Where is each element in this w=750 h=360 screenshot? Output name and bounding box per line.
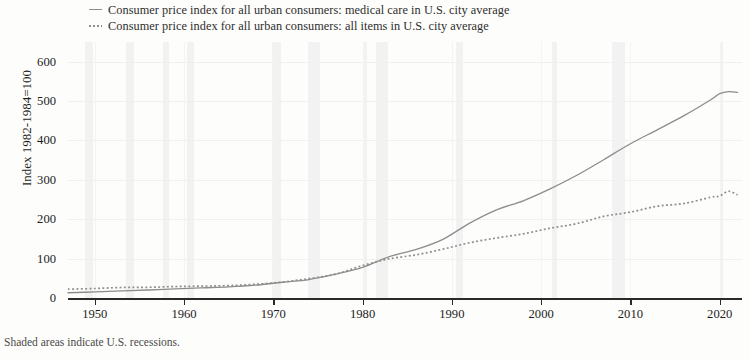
- x-tick-label: 1970: [261, 307, 286, 322]
- legend-item-all-items: Consumer price index for all urban consu…: [88, 18, 688, 34]
- y-tick-label: 500: [0, 94, 56, 109]
- x-tick-mark: [184, 298, 185, 305]
- y-tick-label: 100: [0, 251, 56, 266]
- y-tick-label: 0: [0, 291, 56, 306]
- cpi-chart-figure: Consumer price index for all urban consu…: [0, 0, 750, 360]
- y-tick-label: 400: [0, 133, 56, 148]
- x-tick-mark: [630, 298, 631, 305]
- y-axis-tick-labels: 0100200300400500600: [0, 42, 60, 298]
- recession-footnote: Shaded areas indicate U.S. recessions.: [4, 336, 180, 348]
- x-tick-mark: [363, 298, 364, 305]
- series-line-all-items: [68, 191, 738, 289]
- x-tick-label: 1960: [171, 307, 196, 322]
- x-tick-label: 2010: [618, 307, 643, 322]
- y-tick-label: 200: [0, 212, 56, 227]
- x-tick-label: 2020: [707, 307, 732, 322]
- dotted-line-marker-icon: [88, 19, 104, 33]
- y-tick-label: 600: [0, 54, 56, 69]
- plot-area: [68, 42, 742, 298]
- x-tick-label: 1950: [82, 307, 107, 322]
- solid-line-marker-icon: [88, 3, 104, 17]
- x-tick-mark: [452, 298, 453, 305]
- x-axis-tick-labels: 19501960197019801990200020102020: [68, 307, 742, 327]
- y-tick-label: 300: [0, 172, 56, 187]
- x-tick-label: 1980: [350, 307, 375, 322]
- legend-item-medical-care: Consumer price index for all urban consu…: [88, 2, 688, 18]
- x-axis-line: [68, 298, 742, 300]
- x-tick-label: 1990: [439, 307, 464, 322]
- x-tick-mark: [273, 298, 274, 305]
- series-lines: [68, 42, 742, 298]
- x-tick-mark: [720, 298, 721, 305]
- legend-label-all-items: Consumer price index for all urban consu…: [108, 19, 489, 34]
- x-tick-label: 2000: [529, 307, 554, 322]
- x-tick-mark: [95, 298, 96, 305]
- x-tick-mark: [541, 298, 542, 305]
- chart-legend: Consumer price index for all urban consu…: [88, 2, 688, 34]
- series-line-medical-care: [68, 92, 738, 293]
- legend-label-medical-care: Consumer price index for all urban consu…: [108, 3, 509, 18]
